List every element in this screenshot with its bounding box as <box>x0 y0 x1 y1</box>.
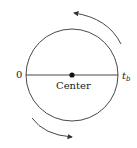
right-label: tb <box>122 70 131 83</box>
center-dot <box>69 72 74 77</box>
left-label: 0 <box>16 69 22 80</box>
arrow-top-icon <box>74 13 121 44</box>
rotation-diagram: 0 Center tb <box>0 0 137 148</box>
center-label: Center <box>56 80 91 91</box>
